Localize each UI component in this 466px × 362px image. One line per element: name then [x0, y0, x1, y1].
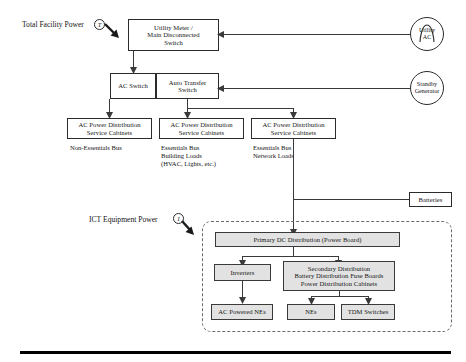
utility-meter-line-2: Main Disconnected	[147, 31, 199, 38]
tdm-switches-label: TDM Switches	[348, 308, 389, 315]
utility-meter-line-1: Utility Meter /	[154, 24, 193, 31]
nes-label: NEs	[305, 308, 317, 315]
meter-to-ac-switch-arrow-icon	[129, 66, 138, 75]
utility-ac-feed-line	[219, 34, 410, 35]
ac-switch-box: AC Switch	[110, 73, 156, 99]
ac-sine-wave-icon	[417, 22, 439, 46]
ac-distribution-cabinet-2-box: AC Power Distribution Service Cabinets	[159, 118, 244, 139]
secondary-distribution-line-1: Secondary Distribution	[308, 265, 370, 272]
ict-equipment-power-label: ICT Equipment Power	[89, 215, 158, 224]
inverters-label: Inverters	[231, 269, 255, 276]
cabinet-3-line-2: Service Cabinets	[271, 129, 316, 136]
primary-dc-drop-line	[293, 247, 294, 256]
cabinet-3-arrow-icon	[289, 111, 298, 120]
power-distribution-diagram: Total Facility Power T Utility Meter / M…	[0, 0, 466, 362]
cabinet-3-line-1: AC Power Distribution	[262, 121, 324, 128]
utility-ac-feed-arrow-icon	[217, 30, 226, 39]
batteries-to-dc-bus-line	[293, 199, 409, 200]
utility-meter-line-3: Switch	[164, 39, 183, 46]
ac-distribution-cabinet-3-box: AC Power Distribution Service Cabinets	[251, 118, 336, 139]
auto-transfer-switch-line-2: Switch	[178, 86, 197, 93]
cabinet-2-arrow-icon	[183, 111, 192, 120]
inverters-box: Inverters	[214, 264, 271, 281]
primary-dc-label: Primary DC Distribution (Power Board)	[253, 236, 361, 243]
auto-transfer-switch-box: Auto Transfer Switch	[156, 73, 219, 99]
ac-powered-nes-label: AC Powered NEs	[218, 308, 266, 315]
ac-powered-nes-box: AC Powered NEs	[211, 304, 273, 320]
cabinet-2-line-2: Service Cabinets	[179, 129, 224, 136]
essentials-bus-building-loads-label: Essentials Bus Building Loads (HVAC, Lig…	[161, 144, 216, 169]
essentials-bus-network-loads-label: Essentials Bus Network Loads	[253, 144, 294, 160]
cabinet-1-line-1: AC Power Distribution	[78, 121, 140, 128]
batteries-box: Batteries	[409, 192, 452, 207]
tdm-switches-box: TDM Switches	[341, 304, 395, 320]
ict-equipment-power-arrow-icon	[180, 219, 202, 239]
total-facility-power-arrow-icon	[103, 22, 125, 42]
primary-dc-branch-bus-line	[242, 256, 338, 257]
footer-divider	[20, 351, 451, 354]
total-facility-power-label: Total Facility Power	[22, 20, 84, 29]
secondary-distribution-box: Secondary Distribution Battery Distribut…	[283, 261, 395, 291]
cabinet-1-arrow-icon	[105, 111, 114, 120]
secondary-distribution-line-2: Battery Distribution Fuse Boards	[295, 272, 384, 279]
standby-generator-feed-arrow-icon	[217, 84, 226, 93]
secondary-distribution-line-3: Power Distribution Cabinets	[301, 280, 377, 287]
standby-generator-feed-line	[219, 88, 410, 89]
utility-meter-box: Utility Meter / Main Disconnected Switch	[128, 19, 219, 51]
cabinet-2-line-1: AC Power Distribution	[170, 121, 232, 128]
ats-branch-bus-line	[187, 108, 294, 109]
non-essentials-bus-label: Non-Essentials Bus	[70, 144, 122, 152]
nes-box: NEs	[287, 304, 335, 320]
cabinet-3-to-primary-dc-line	[293, 139, 294, 231]
secondary-branch-bus-line	[311, 296, 368, 297]
ats-drop-line	[187, 99, 188, 108]
ac-switch-label: AC Switch	[118, 82, 148, 89]
auto-transfer-switch-line-1: Auto Transfer	[169, 79, 206, 86]
standby-generator-line-2: Generator	[415, 88, 440, 95]
standby-generator-source: Standby Generator	[410, 71, 444, 105]
batteries-label: Batteries	[419, 196, 443, 203]
primary-dc-distribution-box: Primary DC Distribution (Power Board)	[215, 232, 400, 247]
cabinet-1-line-2: Service Cabinets	[87, 129, 132, 136]
ac-distribution-cabinet-1-box: AC Power Distribution Service Cabinets	[67, 118, 152, 139]
